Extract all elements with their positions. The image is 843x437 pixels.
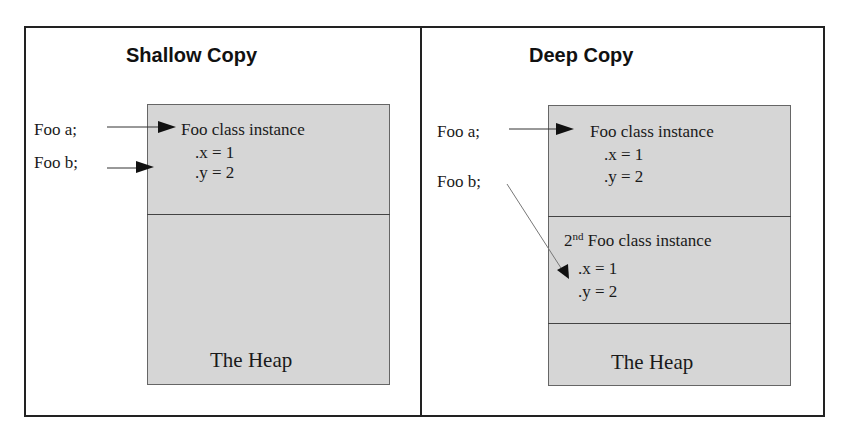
pointer-arrows [0, 0, 843, 437]
arrowhead-icon [557, 264, 569, 279]
arrowhead-icon [158, 121, 176, 133]
deep-arrow-b [507, 184, 561, 268]
arrowhead-icon [556, 123, 574, 135]
arrowhead-icon [136, 161, 154, 173]
